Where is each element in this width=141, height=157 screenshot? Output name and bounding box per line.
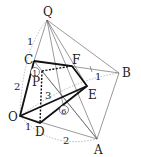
edge-qc [34, 20, 47, 61]
label-b: B [122, 66, 131, 80]
geometry-diagram: Q C F B P E O D A 1 2 1 2 1 3 1 6 [0, 0, 141, 157]
circled-six: 6 [61, 107, 66, 116]
length-pd: 3 [45, 90, 51, 101]
edge-ba [97, 73, 119, 139]
label-c: C [24, 53, 33, 67]
length-fb: 1 [95, 71, 101, 82]
edge-pd [40, 71, 42, 123]
label-d: D [35, 125, 45, 139]
length-co: 2 [14, 81, 20, 92]
length-da: 2 [63, 135, 69, 146]
length-qc: 1 [27, 36, 33, 47]
label-f: F [72, 53, 80, 67]
label-e: E [88, 88, 97, 102]
length-od: 1 [25, 121, 31, 132]
label-o: O [8, 110, 18, 124]
edge-pa [42, 71, 97, 139]
circled-one: 1 [32, 69, 37, 78]
edge-qb [47, 20, 119, 73]
label-q: Q [43, 5, 53, 19]
label-a: A [93, 143, 103, 157]
